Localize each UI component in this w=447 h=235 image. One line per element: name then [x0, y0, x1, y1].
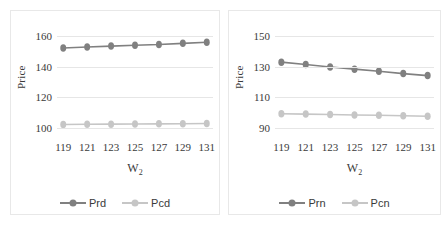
legend-swatch-Pcn	[342, 202, 368, 204]
x-axis-tick-label: 127	[371, 141, 388, 153]
gridline	[275, 97, 434, 98]
x-axis-tick-label: 121	[297, 141, 314, 153]
legend-right: PrnPcn	[229, 197, 440, 209]
gridline	[57, 128, 213, 129]
legend-item-Prn[interactable]: Prn	[279, 197, 325, 209]
data-point-Pcn	[425, 112, 431, 119]
chart-panel-right: Price 90110130150 119121123125127129131 …	[228, 10, 441, 215]
x-axis-tick-label: 119	[273, 141, 289, 153]
data-point-Prd	[84, 43, 90, 50]
legend-item-Prd[interactable]: Prd	[60, 197, 106, 209]
data-point-Prn	[425, 72, 431, 79]
x-axis-title-base-right: W	[347, 161, 358, 175]
gridline	[57, 67, 213, 68]
data-point-Pcd	[204, 120, 210, 127]
legend-swatch-Pcd	[122, 202, 148, 204]
y-axis-tick-label: 100	[36, 122, 53, 134]
x-axis-title-sub-left: 2	[139, 168, 143, 177]
y-axis-title-left: Price	[15, 65, 27, 89]
data-point-Prd	[132, 41, 138, 48]
x-axis-title-sub-right: 2	[358, 168, 362, 177]
x-axis-tick-label: 123	[103, 141, 120, 153]
legend-item-Pcn[interactable]: Pcn	[342, 197, 390, 209]
x-axis-tick-label: 125	[127, 141, 144, 153]
y-axis-tick-label: 140	[36, 61, 53, 73]
data-point-Pcn	[303, 110, 309, 117]
gridline	[57, 36, 213, 37]
x-axis-title-right: W2	[275, 161, 434, 177]
data-point-Pcn	[327, 111, 333, 118]
x-axis-tick-label: 119	[55, 141, 71, 153]
data-point-Prd	[108, 42, 114, 49]
x-axis-ticks-right: 119121123125127129131	[275, 141, 434, 157]
data-point-Pcn	[351, 111, 357, 118]
chart-panel-left: Price 100120140160 119121123125127129131…	[10, 10, 220, 215]
y-axis-tick-label: 160	[36, 30, 53, 42]
gridline	[57, 97, 213, 98]
y-axis-tick-label: 110	[254, 91, 270, 103]
data-point-Prd	[156, 41, 162, 48]
legend-swatch-Prn	[279, 202, 305, 204]
data-point-Pcn	[400, 112, 406, 119]
data-point-Prn	[376, 68, 382, 75]
data-point-Pcd	[156, 120, 162, 127]
legend-left: PrdPcd	[11, 197, 219, 209]
y-axis-title-right: Price	[233, 65, 245, 89]
x-axis-tick-label: 129	[175, 141, 192, 153]
x-axis-ticks-left: 119121123125127129131	[57, 141, 213, 157]
legend-label-Prn: Prn	[308, 197, 325, 209]
caption-fragment	[14, 219, 204, 231]
y-axis-tick-label: 130	[254, 61, 271, 73]
x-axis-title-left: W2	[57, 161, 213, 177]
series-canvas-right	[275, 27, 434, 137]
y-axis-tick-label: 120	[36, 91, 53, 103]
gridline	[275, 36, 434, 37]
legend-label-Pcn: Pcn	[371, 197, 390, 209]
y-axis-tick-label: 90	[259, 122, 270, 134]
gridline	[275, 128, 434, 129]
x-axis-tick-label: 127	[151, 141, 168, 153]
legend-swatch-Prd	[60, 202, 86, 204]
gridline	[275, 67, 434, 68]
y-axis-tick-label: 150	[254, 30, 271, 42]
data-point-Pcd	[132, 120, 138, 127]
data-point-Pcd	[108, 120, 114, 127]
data-point-Pcn	[278, 110, 284, 117]
plot-area-right: 90110130150	[275, 27, 434, 137]
data-point-Prn	[278, 58, 284, 65]
x-axis-title-base-left: W	[127, 161, 138, 175]
legend-label-Pcd: Pcd	[151, 197, 170, 209]
legend-item-Pcd[interactable]: Pcd	[122, 197, 170, 209]
legend-label-Prd: Prd	[89, 197, 106, 209]
data-point-Pcd	[180, 120, 186, 127]
data-point-Pcn	[376, 112, 382, 119]
x-axis-tick-label: 121	[79, 141, 96, 153]
data-point-Prd	[180, 40, 186, 47]
figure-two-line-charts: Price 100120140160 119121123125127129131…	[0, 0, 447, 235]
data-point-Prn	[400, 70, 406, 77]
x-axis-tick-label: 131	[199, 141, 216, 153]
plot-area-left: 100120140160	[57, 27, 213, 137]
data-point-Prd	[204, 39, 210, 46]
data-point-Prd	[60, 44, 66, 51]
x-axis-tick-label: 129	[395, 141, 412, 153]
series-canvas-left	[57, 27, 213, 137]
x-axis-tick-label: 125	[346, 141, 363, 153]
x-axis-tick-label: 131	[419, 141, 436, 153]
x-axis-tick-label: 123	[322, 141, 339, 153]
